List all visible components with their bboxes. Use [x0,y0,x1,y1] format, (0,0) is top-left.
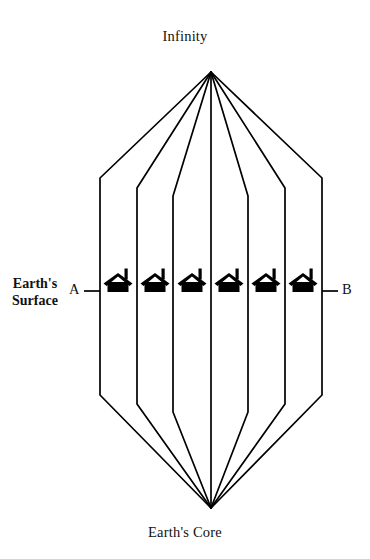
house-icon [289,269,318,293]
house-body [182,282,203,292]
house-icon [178,269,207,293]
diagram-canvas: Infinity Earth'sSurface A B Earth's Core [0,0,370,559]
house-chimney [125,269,128,280]
house-icon [104,269,133,293]
house-icon [252,269,281,293]
house-body [108,282,129,292]
house-icon [215,269,244,293]
house-body [256,282,277,292]
house-chimney [162,269,165,280]
diagram-vector-art [0,0,370,559]
house-chimney [236,269,239,280]
house-body [145,282,166,292]
geodesic-line-group [100,72,322,508]
house-icon [141,269,170,293]
house-chimney [273,269,276,280]
house-body [219,282,240,292]
house-body [293,282,314,292]
house-chimney [199,269,202,280]
house-chimney [310,269,313,280]
